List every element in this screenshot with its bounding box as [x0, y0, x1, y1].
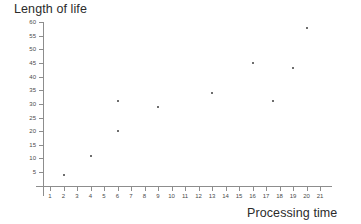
x-axis-tick-label: 9	[152, 193, 164, 199]
y-axis-tick-label: 15	[20, 142, 36, 148]
x-axis-tick-mark	[212, 187, 213, 191]
y-axis-tick-label: 20	[20, 128, 36, 134]
x-axis-tick-mark	[50, 187, 51, 191]
x-axis-tick-mark	[91, 187, 92, 191]
y-axis-line	[43, 22, 44, 196]
x-axis-tick-label: 19	[287, 193, 299, 199]
x-axis-tick-label: 13	[206, 193, 218, 199]
y-axis-tick-mark	[39, 172, 43, 173]
x-axis-tick-label: 11	[179, 193, 191, 199]
data-point	[252, 62, 254, 64]
y-axis-tick-mark	[39, 118, 43, 119]
data-point	[272, 100, 274, 102]
x-axis-tick-label: 12	[193, 193, 205, 199]
x-axis-tick-label: 20	[301, 193, 313, 199]
x-axis-tick-mark	[131, 187, 132, 191]
x-axis-tick-mark	[158, 187, 159, 191]
y-axis-tick-mark	[39, 77, 43, 78]
x-axis-tick-mark	[239, 187, 240, 191]
x-axis-tick-mark	[145, 187, 146, 191]
x-axis-tick-label: 4	[85, 193, 97, 199]
data-point	[157, 106, 159, 108]
y-axis-tick-label: 40	[20, 74, 36, 80]
scatter-chart: Length of life 51015202530354045505560 1…	[0, 0, 361, 224]
data-point	[211, 92, 213, 94]
x-axis-tick-mark	[266, 187, 267, 191]
x-axis-tick-mark	[280, 187, 281, 191]
x-axis-tick-label: 14	[220, 193, 232, 199]
x-axis-tick-label: 18	[274, 193, 286, 199]
x-axis-tick-mark	[185, 187, 186, 191]
x-axis-tick-mark	[77, 187, 78, 191]
x-axis-tick-label: 10	[166, 193, 178, 199]
x-axis-tick-mark	[104, 187, 105, 191]
data-point	[292, 67, 294, 69]
x-axis-title: Processing time	[247, 206, 337, 220]
y-axis-tick-label: 30	[20, 101, 36, 107]
x-axis-tick-label: 7	[125, 193, 137, 199]
data-point	[63, 174, 65, 176]
x-axis-line	[36, 186, 332, 187]
y-axis-tick-mark	[39, 145, 43, 146]
y-axis-tick-mark	[39, 49, 43, 50]
x-axis-tick-mark	[307, 187, 308, 191]
x-axis-tick-label: 6	[112, 193, 124, 199]
y-axis-tick-label: 25	[20, 115, 36, 121]
y-axis-tick-mark	[39, 131, 43, 132]
y-axis-tick-mark	[39, 158, 43, 159]
x-axis-tick-label: 1	[44, 193, 56, 199]
x-axis-tick-label: 17	[260, 193, 272, 199]
x-axis-tick-label: 5	[98, 193, 110, 199]
x-axis-tick-mark	[172, 187, 173, 191]
y-axis-tick-mark	[39, 104, 43, 105]
x-axis-tick-mark	[64, 187, 65, 191]
y-axis-tick-label: 60	[20, 19, 36, 25]
x-axis-tick-mark	[118, 187, 119, 191]
y-axis-tick-label: 5	[20, 169, 36, 175]
x-axis-tick-label: 15	[233, 193, 245, 199]
data-point	[117, 100, 119, 102]
y-axis-tick-label: 10	[20, 155, 36, 161]
plot-area: 51015202530354045505560 1234567891011121…	[0, 0, 361, 224]
x-axis-tick-mark	[253, 187, 254, 191]
data-point	[306, 27, 308, 29]
x-axis-tick-mark	[199, 187, 200, 191]
y-axis-tick-mark	[39, 22, 43, 23]
x-axis-tick-label: 21	[314, 193, 326, 199]
x-axis-tick-label: 16	[247, 193, 259, 199]
y-axis-tick-label: 45	[20, 60, 36, 66]
y-axis-tick-mark	[39, 36, 43, 37]
data-point	[90, 155, 92, 157]
x-axis-tick-mark	[226, 187, 227, 191]
x-axis-tick-label: 8	[139, 193, 151, 199]
x-axis-tick-mark	[293, 187, 294, 191]
y-axis-tick-label: 55	[20, 33, 36, 39]
x-axis-tick-label: 2	[58, 193, 70, 199]
y-axis-tick-mark	[39, 63, 43, 64]
x-axis-tick-mark	[320, 187, 321, 191]
y-axis-tick-label: 35	[20, 87, 36, 93]
y-axis-tick-mark	[39, 90, 43, 91]
data-point	[117, 130, 119, 132]
y-axis-tick-label: 50	[20, 46, 36, 52]
x-axis-tick-label: 3	[71, 193, 83, 199]
